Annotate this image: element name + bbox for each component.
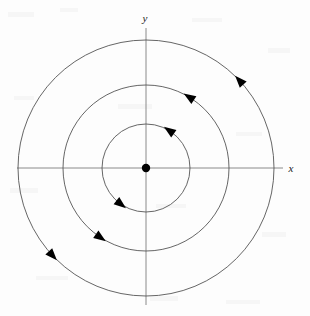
inner-orbit-arrowhead-2 bbox=[114, 197, 129, 212]
middle-orbit-arrowhead-2 bbox=[93, 230, 108, 245]
phase-portrait-canvas: y x bbox=[0, 0, 310, 316]
inner-orbit-arrowhead-1 bbox=[161, 123, 176, 138]
equilibrium-point-dot bbox=[142, 164, 150, 172]
paper-texture bbox=[8, 8, 290, 304]
y-axis-label: y bbox=[142, 12, 148, 24]
middle-orbit-arrowhead-1 bbox=[181, 90, 196, 104]
phase-portrait-figure: y x bbox=[0, 0, 310, 316]
x-axis-label: x bbox=[288, 162, 294, 174]
coordinate-axes bbox=[17, 28, 283, 305]
